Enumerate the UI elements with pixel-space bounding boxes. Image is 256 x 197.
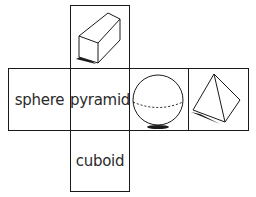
cuboid-icon <box>76 13 120 64</box>
label-pyramid: pyramid <box>70 69 130 130</box>
sphere-icon <box>133 75 183 129</box>
pyramid-icon <box>191 74 240 124</box>
label-sphere: sphere <box>9 69 70 130</box>
label-cuboid: cuboid <box>71 131 129 191</box>
